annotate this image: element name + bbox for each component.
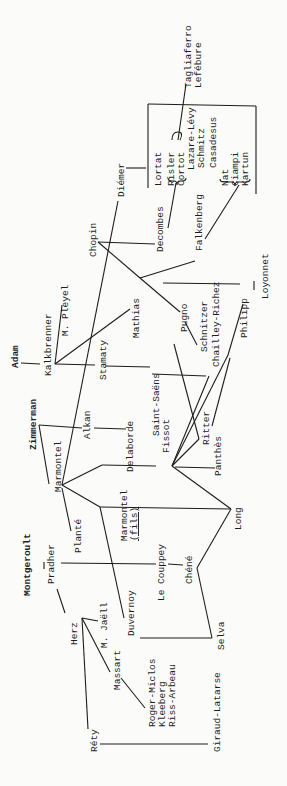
edge [197,509,231,568]
arrow-risler-cortot [172,132,182,140]
edge [62,488,71,531]
labels: AdamKalkbrennerM. PleyelZimmermanMontger… [10,25,271,752]
edge [55,364,95,365]
node-kalkbrenner: Kalkbrenner [43,313,54,376]
edge [94,428,126,429]
edge [21,363,40,364]
node-decombes: Decombes [155,206,166,252]
node-schnitzer: Schnitzer [199,301,210,352]
lineage-diagram: AdamKalkbrennerM. PleyelZimmermanMontger… [0,0,287,786]
node-selva: Selva [216,621,227,650]
node-chene: Chéné [184,555,195,584]
node-rety: Réty [89,729,100,752]
edge [62,485,100,507]
edge [82,618,98,621]
edge [205,185,239,239]
edge [140,261,195,278]
edge [197,568,212,638]
edge [148,104,256,106]
node-pugno: Pugno [179,303,190,332]
node-loyonnet: Loyonnet [260,253,271,299]
node-schmitz: Schmitz [196,128,207,168]
node-m-pleyel: M. Pleyel [60,284,71,336]
edge [39,425,49,484]
node-chopin: Chopin [88,223,99,257]
edge [105,366,150,367]
node-alkan: Alkan [82,410,93,439]
edge [174,344,199,439]
node-zimmerman: Zimmerman [28,398,39,450]
node-giraud-latarse: Giraud-Latarse [212,672,223,752]
edge [39,425,82,428]
edge [57,589,65,613]
node-herz: Herz [69,622,80,645]
node-diemer: Diémer [116,163,127,197]
node-massart: Massart [112,650,123,690]
node-kartun: Kartun [240,152,251,186]
edge [175,467,215,468]
edge [172,439,199,466]
edge [121,678,145,708]
node-ritter: Ritter [201,411,212,445]
node-lortat: Lortat [153,152,164,186]
node-riss-arbeau: Riss-Arbeau [167,664,178,727]
node-fissot: Fissot [161,419,172,453]
edge [61,563,156,564]
edge [168,564,183,565]
node-marmontel: Marmontel [53,440,64,492]
node-duvernoy: Duvernoy [126,590,137,636]
node-le-couppey: Le Couppey [156,544,167,601]
node-chailley-richez: Chailley-Richez [211,281,222,367]
node-marmontel-fils-suffix: (fils) [129,507,140,541]
node-plante: Planté [73,518,84,553]
edge [168,183,176,228]
node-panthes: Panthès [213,436,224,476]
node-m-jaell: M. Jaëll [99,602,110,648]
node-philipp: Philipp [239,298,250,338]
node-adam: Adam [10,345,21,368]
node-mathias: Mathias [131,298,142,338]
node-pradher: Pradher [46,544,57,584]
edge [62,465,102,485]
node-stamaty: Stamaty [98,340,109,380]
edge [163,283,240,284]
node-falkenberg: Falkenberg [194,194,205,251]
node-montgeroult: Montgeroult [22,533,33,596]
edge [82,618,88,729]
node-delaborde: Delaborde [125,420,136,472]
node-lefebure: Lefébure [193,42,204,88]
edge [98,242,155,244]
node-long: Long [233,507,244,530]
node-casadesus: Casadesus [208,117,219,168]
